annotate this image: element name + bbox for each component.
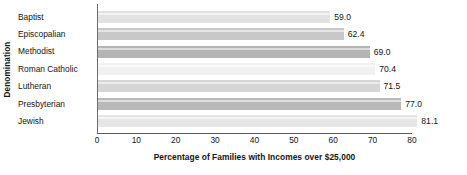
x-tick-label: 20	[171, 136, 180, 144]
x-tick-label: 10	[132, 136, 141, 144]
y-tick-label: Jewish	[16, 113, 96, 130]
bar-value-label: 69.0	[374, 47, 391, 56]
y-tick-label: Roman Catholic	[16, 60, 96, 77]
x-tick-label: 60	[329, 136, 338, 144]
y-tick-label: Episcopalian	[16, 25, 96, 42]
x-tick-label: 50	[289, 136, 298, 144]
plot-area: 59.0 62.4 69.0 70.4 71.5 77.0	[97, 4, 463, 134]
bar-row: 59.0	[98, 8, 463, 25]
y-axis-title-text: Denomination	[4, 41, 13, 97]
bar-value-label: 62.4	[348, 30, 365, 39]
x-axis-title: Percentage of Families with Incomes over…	[97, 152, 412, 162]
bar-row: 70.4	[98, 60, 463, 77]
bar-value-label: 77.0	[405, 100, 422, 109]
bar-baptist	[98, 11, 330, 23]
x-axis-tick-labels: 0 10 20 30 40 50 60 70 80	[97, 136, 427, 148]
x-tick-label: 70	[368, 136, 377, 144]
bar-chart: Denomination Baptist Episcopalian Method…	[0, 0, 467, 175]
bar-value-label: 81.1	[421, 117, 438, 126]
y-tick-label: Methodist	[16, 43, 96, 60]
bar-value-label: 59.0	[334, 12, 351, 21]
bar-value-label: 70.4	[379, 65, 396, 74]
bar-methodist	[98, 46, 370, 58]
bar-episcopalian	[98, 28, 344, 40]
bar-row: 71.5	[98, 78, 463, 95]
x-tick-label: 0	[95, 136, 100, 144]
y-axis-title: Denomination	[0, 8, 16, 130]
x-tick-label: 40	[250, 136, 259, 144]
x-tick-label: 30	[210, 136, 219, 144]
bar-jewish	[98, 115, 417, 127]
y-tick-label: Lutheran	[16, 78, 96, 95]
bar-roman-catholic	[98, 63, 375, 75]
y-tick-label: Presbyterian	[16, 95, 96, 112]
bar-value-label: 71.5	[384, 82, 401, 91]
y-tick-label: Baptist	[16, 8, 96, 25]
bar-row: 81.1	[98, 113, 463, 130]
y-axis-tick-labels: Baptist Episcopalian Methodist Roman Cat…	[16, 8, 96, 130]
bar-lutheran	[98, 80, 380, 92]
bar-row: 69.0	[98, 43, 463, 60]
x-tick-label: 80	[407, 136, 416, 144]
bar-presbyterian	[98, 98, 401, 110]
bars-layer: 59.0 62.4 69.0 70.4 71.5 77.0	[98, 8, 463, 130]
bar-row: 77.0	[98, 95, 463, 112]
bar-row: 62.4	[98, 25, 463, 42]
